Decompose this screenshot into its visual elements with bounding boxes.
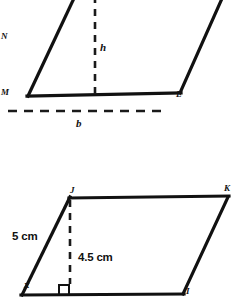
bottom-top-side-JK bbox=[69, 196, 229, 198]
bottom-right-slant-side-KI bbox=[183, 197, 228, 294]
top-parallelogram-figure: N M L h b J K I 5 cm 4.5 cm x bbox=[0, 0, 241, 297]
top-left-slant-side bbox=[28, 0, 76, 96]
side-length-label: 5 cm bbox=[12, 231, 37, 243]
diagram-canvas bbox=[0, 0, 241, 297]
vertex-label-j: J bbox=[70, 186, 75, 195]
height-length-label: 4.5 cm bbox=[78, 252, 113, 264]
top-base-side-ML bbox=[27, 93, 181, 96]
vertex-label-k: K bbox=[224, 184, 230, 193]
base-label-b: b bbox=[76, 118, 82, 129]
bottom-base-side bbox=[21, 294, 184, 295]
vertex-label-i: I bbox=[186, 287, 190, 296]
height-label-h: h bbox=[100, 42, 106, 53]
angle-label-x: x bbox=[24, 279, 30, 290]
vertex-label-l: L bbox=[176, 90, 182, 99]
vertex-label-n: N bbox=[1, 32, 8, 41]
top-right-slant-side bbox=[180, 0, 224, 93]
vertex-label-m: M bbox=[1, 88, 9, 97]
